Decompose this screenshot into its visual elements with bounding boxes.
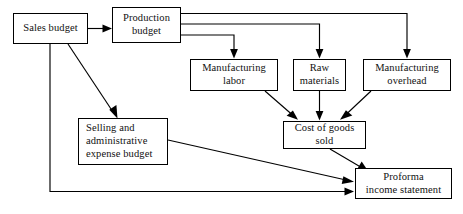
edge-manufacturing-labor-to-cogs <box>265 91 298 120</box>
node-selling-administrative-expense-budget-label: Selling and administrative expense budge… <box>79 122 155 160</box>
node-manufacturing-labor-label: Manufacturing labor <box>199 62 269 88</box>
node-cost-of-goods-sold[interactable]: Cost of goods sold <box>283 121 366 149</box>
node-proforma-income-statement-label: Proforma income statement <box>363 171 444 197</box>
node-sales-budget-label: Sales budget <box>20 22 81 35</box>
edge-production-to-manufacturing-overhead <box>181 14 411 59</box>
edge-sales-to-production <box>88 25 112 33</box>
node-cost-of-goods-sold-label: Cost of goods sold <box>292 122 358 148</box>
node-manufacturing-overhead[interactable]: Manufacturing overhead <box>363 59 451 91</box>
budget-flowchart: Sales budget Production budget Manufactu… <box>0 0 463 214</box>
node-production-budget[interactable]: Production budget <box>112 7 181 43</box>
edge-production-to-raw-materials <box>181 24 323 59</box>
edge-sales-to-selling-admin <box>68 44 118 119</box>
edge-manufacturing-overhead-to-cogs <box>340 91 371 120</box>
node-raw-materials[interactable]: Raw materials <box>293 59 346 91</box>
node-raw-materials-label: Raw materials <box>297 62 342 88</box>
edge-raw-materials-to-cogs <box>316 91 324 121</box>
node-production-budget-label: Production budget <box>120 12 173 38</box>
node-selling-administrative-expense-budget[interactable]: Selling and administrative expense budge… <box>78 118 168 165</box>
node-manufacturing-labor[interactable]: Manufacturing labor <box>190 59 278 91</box>
node-sales-budget[interactable]: Sales budget <box>13 13 88 44</box>
node-proforma-income-statement[interactable]: Proforma income statement <box>355 168 452 199</box>
node-manufacturing-overhead-label: Manufacturing overhead <box>372 62 442 88</box>
edge-production-to-manufacturing-labor <box>181 35 238 59</box>
